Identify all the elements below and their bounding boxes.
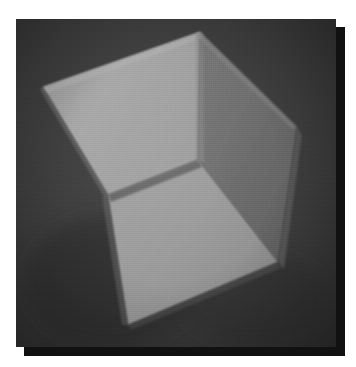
figure-image-panel [16, 19, 336, 347]
cube-render-svg [16, 19, 336, 347]
cube-inner-vertical-edge [196, 33, 204, 162]
screenshot-root [0, 0, 356, 367]
